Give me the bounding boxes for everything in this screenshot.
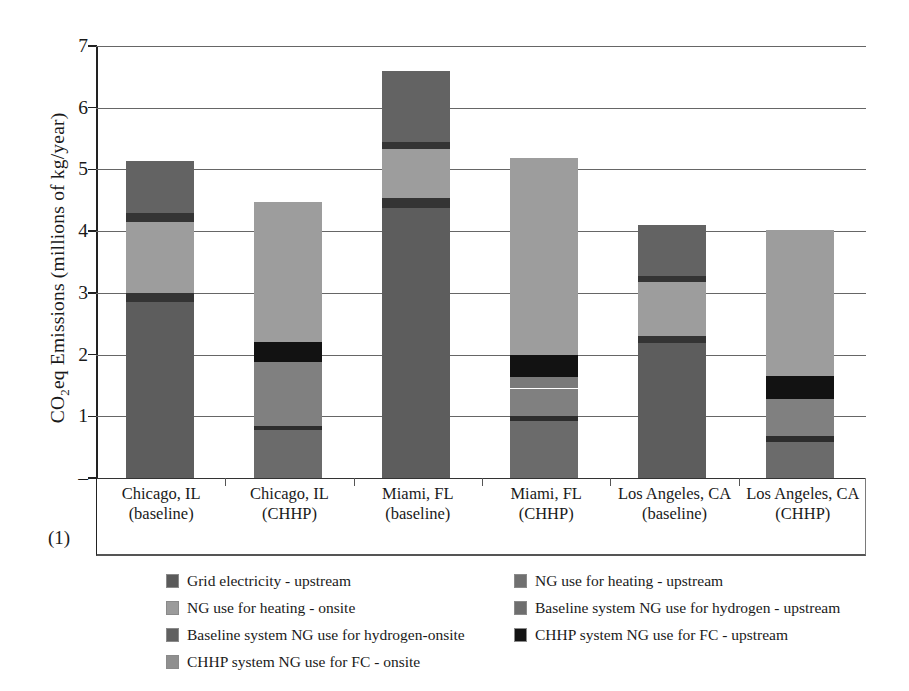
bar-segment[interactable]	[766, 230, 834, 376]
y-tick-label: 5	[40, 158, 88, 180]
x-axis-separator	[610, 478, 611, 486]
bar-miami-chhp[interactable]	[510, 158, 578, 478]
y-axis-line	[96, 46, 98, 478]
legend-label: CHHP system NG use for FC - onsite	[187, 653, 420, 671]
x-axis-label-line: Miami, FL	[482, 484, 610, 504]
x-axis-label-line: (baseline)	[97, 504, 225, 524]
x-axis-label-line: (CHHP)	[225, 504, 353, 524]
gridline	[96, 108, 866, 109]
bar-segment[interactable]	[638, 276, 706, 282]
bar-segment[interactable]	[510, 158, 578, 355]
bar-segment[interactable]	[766, 399, 834, 436]
x-axis-label-line: (baseline)	[610, 504, 738, 524]
x-axis-label-line: Chicago, IL	[97, 484, 225, 504]
gridline	[96, 46, 866, 47]
legend-label: Baseline system NG use for hydrogen - up…	[535, 599, 840, 617]
x-axis-label-line: (CHHP)	[739, 504, 867, 524]
gridline	[96, 231, 866, 232]
y-tick-label: –	[40, 467, 88, 489]
gridline	[96, 169, 866, 170]
bar-segment[interactable]	[126, 161, 194, 212]
y-tick-label: 4	[40, 220, 88, 242]
bar-segment[interactable]	[638, 343, 706, 478]
legend-item[interactable]: NG use for heating - onsite	[166, 599, 355, 617]
y-tick-label: 7	[40, 35, 88, 57]
bar-segment[interactable]	[510, 416, 578, 420]
bar-segment[interactable]	[766, 376, 834, 399]
legend-label: NG use for heating - upstream	[535, 572, 723, 590]
bar-miami-baseline[interactable]	[382, 71, 450, 478]
legend-swatch-icon	[514, 601, 527, 615]
bar-segment[interactable]	[510, 355, 578, 378]
y-tick-label: 1	[40, 405, 88, 427]
x-axis-label-3: Miami, FL(CHHP)	[482, 484, 610, 524]
legend-item[interactable]: CHHP system NG use for FC - onsite	[166, 653, 420, 671]
legend-swatch-icon	[514, 628, 527, 642]
bar-chicago-baseline[interactable]	[126, 161, 194, 478]
bar-la-baseline[interactable]	[638, 225, 706, 478]
stacked-bar-chart-figure: CO2eq Emissions (millions of kg/year) 76…	[0, 0, 909, 691]
legend-label: CHHP system NG use for FC - upstream	[535, 626, 788, 644]
legend-swatch-icon	[166, 601, 179, 615]
bar-segment[interactable]	[638, 336, 706, 343]
bar-segment[interactable]	[382, 149, 450, 198]
bar-segment[interactable]	[638, 225, 706, 276]
legend-item[interactable]: CHHP system NG use for FC - upstream	[514, 626, 788, 644]
x-axis-label-line: Chicago, IL	[225, 484, 353, 504]
legend-item[interactable]: Baseline system NG use for hydrogen-onsi…	[166, 626, 465, 644]
x-axis-label-5: Los Angeles, CA(CHHP)	[739, 484, 867, 524]
y-tick-label: 2	[40, 343, 88, 365]
bar-segment[interactable]	[510, 421, 578, 478]
legend-swatch-icon	[166, 655, 179, 669]
x-axis-separator	[482, 478, 483, 486]
bar-segment[interactable]	[126, 213, 194, 222]
y-tick-label: 6	[40, 96, 88, 118]
y-tick-label: 3	[40, 281, 88, 303]
x-axis-label-line: Los Angeles, CA	[739, 484, 867, 504]
bar-segment[interactable]	[254, 342, 322, 362]
bar-segment[interactable]	[126, 293, 194, 302]
x-axis-label-line: Miami, FL	[354, 484, 482, 504]
bar-segment[interactable]	[382, 71, 450, 142]
bar-segment[interactable]	[126, 222, 194, 293]
gridline	[96, 293, 866, 294]
bar-segment[interactable]	[382, 198, 450, 207]
chart-legend: Grid electricity - upstreamNG use for he…	[166, 572, 866, 684]
bar-segment[interactable]	[382, 208, 450, 478]
x-axis-separator	[739, 478, 740, 486]
bar-segment[interactable]	[254, 202, 322, 342]
bar-segment[interactable]	[510, 377, 578, 388]
legend-swatch-icon	[166, 574, 179, 588]
gridline	[96, 416, 866, 417]
legend-swatch-icon	[514, 574, 527, 588]
x-axis-label-2: Miami, FL(baseline)	[354, 484, 482, 524]
x-axis-label-line: (baseline)	[354, 504, 482, 524]
y-axis-tick-labels: 7654321–	[40, 46, 88, 478]
bar-segment[interactable]	[382, 142, 450, 149]
bar-la-chhp[interactable]	[766, 230, 834, 478]
x-axis-separator	[225, 478, 226, 486]
x-axis-label-0: Chicago, IL(baseline)	[97, 484, 225, 524]
figure-note: (1)	[48, 527, 70, 549]
x-axis-separator	[354, 478, 355, 486]
bar-chicago-chhp[interactable]	[254, 202, 322, 478]
bar-segment[interactable]	[638, 282, 706, 336]
bar-segment[interactable]	[254, 430, 322, 478]
legend-item[interactable]: Baseline system NG use for hydrogen - up…	[514, 599, 840, 617]
bar-segment[interactable]	[254, 362, 322, 426]
x-axis-label-4: Los Angeles, CA(baseline)	[610, 484, 738, 524]
bar-segment[interactable]	[254, 426, 322, 431]
gridline	[96, 355, 866, 356]
x-axis-label-band: Chicago, IL(baseline)Chicago, IL(CHHP)Mi…	[96, 478, 866, 556]
legend-label: NG use for heating - onsite	[187, 599, 355, 617]
legend-swatch-icon	[166, 628, 179, 642]
legend-item[interactable]: NG use for heating - upstream	[514, 572, 723, 590]
legend-item[interactable]: Grid electricity - upstream	[166, 572, 351, 590]
x-axis-label-1: Chicago, IL(CHHP)	[225, 484, 353, 524]
bar-segment[interactable]	[126, 302, 194, 478]
x-axis-label-line: (CHHP)	[482, 504, 610, 524]
bar-segment[interactable]	[766, 436, 834, 442]
bar-segment[interactable]	[510, 389, 578, 417]
legend-label: Grid electricity - upstream	[187, 572, 351, 590]
bar-segment[interactable]	[766, 442, 834, 478]
